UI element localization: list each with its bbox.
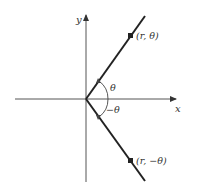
y-axis-label: y — [75, 14, 82, 25]
point-label-r-theta: (r, θ) — [136, 30, 159, 41]
point-r-neg-theta — [128, 158, 133, 163]
angle-label-theta: θ — [110, 82, 116, 93]
point-label-r-neg-theta: (r, −θ) — [136, 155, 167, 166]
angle-arc-theta — [99, 81, 108, 99]
x-axis-label: x — [175, 103, 181, 114]
polar-symmetry-diagram: y x (r, θ) (r, −θ) θ −θ — [0, 0, 197, 195]
diagram-canvas: y x (r, θ) (r, −θ) θ −θ — [0, 0, 197, 195]
angle-label-neg-theta: −θ — [106, 104, 120, 115]
point-r-theta — [128, 33, 133, 38]
